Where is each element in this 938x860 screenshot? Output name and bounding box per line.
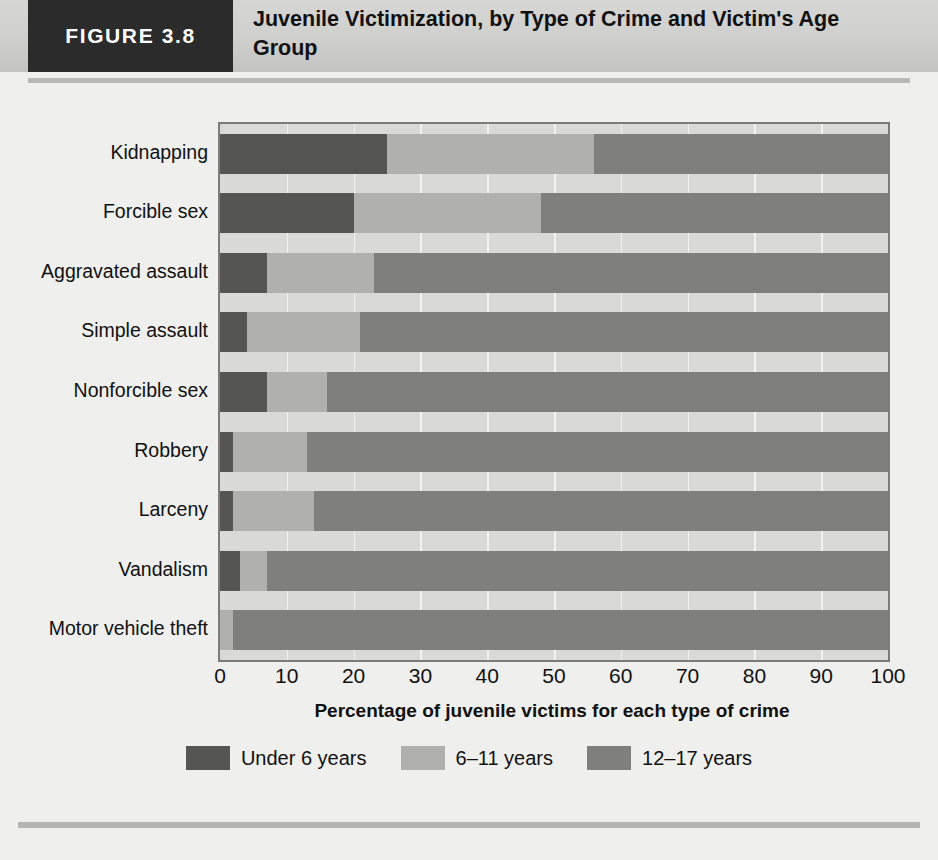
figure-header-band: FIGURE 3.8 Juvenile Victimization, by Ty… [0,0,938,72]
legend-swatch-icon [401,746,445,770]
bar-segment [220,193,354,233]
figure-number-label: FIGURE 3.8 [65,24,195,48]
x-axis-title: Percentage of juvenile victims for each … [218,700,886,722]
bar-segment [240,551,267,591]
bar-segment [220,432,233,472]
y-axis-category-labels: KidnappingForcible sexAggravated assault… [0,122,208,658]
y-axis-label: Nonforcible sex [0,379,208,401]
bar-segment [220,610,233,650]
bar-row [220,193,888,233]
x-axis-tick-label: 70 [676,664,699,688]
bar-segment [220,134,387,174]
x-axis-tick-label: 60 [609,664,632,688]
legend-item: 12–17 years [587,746,752,770]
x-axis-tick-label: 20 [342,664,365,688]
bar-row [220,372,888,412]
bar-row [220,312,888,352]
bar-segment [327,372,888,412]
bar-segment [267,551,888,591]
chart-legend: Under 6 years6–11 years12–17 years [0,746,938,770]
x-axis-tick-label: 30 [409,664,432,688]
bar-segment [220,312,247,352]
legend-label: 12–17 years [642,747,752,770]
x-axis-tick-label: 100 [870,664,905,688]
legend-item: Under 6 years [186,746,367,770]
bar-segment [267,372,327,412]
bar-segment [541,193,888,233]
bar-segment [233,491,313,531]
legend-item: 6–11 years [401,746,553,770]
bar-segment [247,312,361,352]
figure-number-tab: FIGURE 3.8 [28,0,233,72]
legend-swatch-icon [587,746,631,770]
bar-segment [387,134,594,174]
x-axis-tick-label: 40 [476,664,499,688]
gridline-100 [888,124,890,660]
x-axis-tick-label: 10 [275,664,298,688]
header-divider-rule [28,78,910,83]
bar-row [220,134,888,174]
figure-title: Juvenile Victimization, by Type of Crime… [253,5,893,63]
bar-row [220,551,888,591]
bar-segment [314,491,888,531]
legend-label: Under 6 years [241,747,367,770]
y-axis-label: Aggravated assault [0,260,208,282]
chart-area: KidnappingForcible sexAggravated assault… [0,86,938,816]
y-axis-label: Motor vehicle theft [0,617,208,639]
x-axis-tick-label: 0 [214,664,226,688]
bar-segment [220,491,233,531]
bar-row [220,253,888,293]
footer-divider-rule [18,822,920,828]
legend-label: 6–11 years [456,747,553,770]
x-axis-ticks: 0102030405060708090100 [218,664,890,694]
y-axis-label: Robbery [0,439,208,461]
bar-segment [354,193,541,233]
y-axis-label: Vandalism [0,558,208,580]
bar-segment [220,372,267,412]
y-axis-label: Simple assault [0,319,208,341]
bar-segment [267,253,374,293]
figure-page: FIGURE 3.8 Juvenile Victimization, by Ty… [0,0,938,860]
plot-frame [218,122,890,662]
bar-row [220,610,888,650]
bar-row [220,432,888,472]
bar-segment [220,551,240,591]
x-axis-tick-label: 80 [743,664,766,688]
bar-segment [233,432,306,472]
x-axis-tick-label: 50 [542,664,565,688]
x-axis-tick-label: 90 [810,664,833,688]
y-axis-label: Kidnapping [0,141,208,163]
bar-segment [307,432,888,472]
bar-row [220,491,888,531]
bar-segment [594,134,888,174]
legend-swatch-icon [186,746,230,770]
bar-segment [360,312,888,352]
y-axis-label: Larceny [0,498,208,520]
bar-segment [233,610,888,650]
bar-segment [220,253,267,293]
bar-segment [374,253,888,293]
y-axis-label: Forcible sex [0,200,208,222]
